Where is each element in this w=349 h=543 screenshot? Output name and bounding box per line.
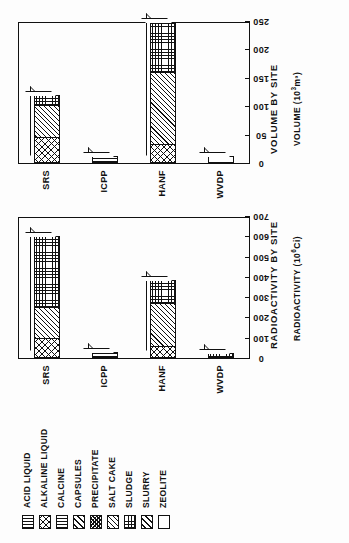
bar-segment-salt-cake <box>150 303 176 346</box>
bar-segment-alkaline-liquid <box>150 346 176 358</box>
bar-srs <box>34 236 60 358</box>
chart-volume-by-site: 050100150200250SRSICPPHANFWVDPVOLUME (10… <box>18 20 318 198</box>
figure-canvas: ACID LIQUIDALKALINE LIQUIDCALCINECAPSULE… <box>0 0 349 543</box>
bar-group <box>18 22 250 163</box>
tick-label: 600 <box>253 232 269 242</box>
tick-label: 150 <box>253 74 269 84</box>
legend-swatch-vertical-lines-wide <box>56 515 68 529</box>
category-label-srs: SRS <box>41 365 51 385</box>
legend-swatch-x-cross-coarse <box>39 515 51 529</box>
category-labels: SRSICPPHANFWVDP <box>18 166 250 198</box>
bar-hanf <box>150 280 176 358</box>
legend-label: PRECIPITATE <box>91 449 100 508</box>
legend-swatch-diagonal-single <box>73 515 85 529</box>
legend-item: SLURRY <box>139 399 154 529</box>
tick-label: 700 <box>253 212 269 222</box>
category-label-hanf: HANF <box>157 170 167 197</box>
category-label-srs: SRS <box>41 170 51 190</box>
bar-segment-sludge <box>34 236 60 307</box>
legend-item: ALKALINE LIQUID <box>37 399 52 529</box>
tick-label: 200 <box>253 45 269 55</box>
tick-label: 0 <box>258 354 263 364</box>
tick-label: 200 <box>253 313 269 323</box>
category-label-hanf: HANF <box>157 365 167 392</box>
legend-swatch-vertical-lines <box>22 515 34 529</box>
value-axis-title: VOLUME (103m³) <box>290 72 302 146</box>
tick-label: 50 <box>256 131 267 141</box>
legend-swatch-diagonal-dense <box>107 515 119 529</box>
legend-item: CAPSULES <box>71 399 86 529</box>
chart-title: VOLUME BY SITE <box>268 64 279 154</box>
category-label-icpp: ICPP <box>99 365 109 388</box>
legend-swatch-diagonal-wide <box>141 515 153 529</box>
tick-label: 300 <box>253 293 269 303</box>
legend-swatch-grid <box>124 515 136 529</box>
value-axis-title: RADIOACTIVITY (106Ci) <box>290 236 302 341</box>
legend-label: ALKALINE LIQUID <box>40 429 49 508</box>
legend-label: SLUDGE <box>125 470 134 508</box>
category-label-icpp: ICPP <box>99 170 109 193</box>
bar-segment-sludge <box>150 280 176 303</box>
bar-segment-salt-cake <box>34 105 60 137</box>
bar-srs <box>34 95 60 163</box>
legend-label: ZEOLITE <box>159 470 168 508</box>
bar-segment-sludge <box>150 22 176 72</box>
legend-label: CAPSULES <box>74 459 83 508</box>
category-axis <box>18 358 250 359</box>
waste-form-legend: ACID LIQUIDALKALINE LIQUIDCALCINECAPSULE… <box>20 399 180 529</box>
tick-label: 100 <box>253 334 269 344</box>
bar-segment-sludge <box>34 95 60 105</box>
legend-label: ACID LIQUID <box>23 452 32 508</box>
tick-label: 100 <box>253 102 269 112</box>
legend-label: SALT CAKE <box>108 457 117 508</box>
legend-item: ZEOLITE <box>156 399 171 529</box>
tick-label: 400 <box>253 273 269 283</box>
tick-label: 0 <box>258 159 263 169</box>
bar-segment-alkaline-liquid <box>34 137 60 163</box>
bar-group <box>18 217 250 358</box>
category-label-wvdp: WVDP <box>215 365 225 394</box>
legend-item: PRECIPITATE <box>88 399 103 529</box>
legend-item: ACID LIQUID <box>20 399 35 529</box>
legend-label: SLURRY <box>142 471 151 508</box>
chart-title: RADIOACTIVITY BY SITE <box>268 221 279 349</box>
legend-swatch-x-cross-dense <box>90 515 102 529</box>
category-labels: SRSICPPHANFWVDP <box>18 361 250 393</box>
legend-item: SLUDGE <box>122 399 137 529</box>
category-label-wvdp: WVDP <box>215 170 225 199</box>
legend-item: SALT CAKE <box>105 399 120 529</box>
legend-label: CALCINE <box>57 468 66 508</box>
bar-segment-salt-cake <box>34 307 60 337</box>
category-axis <box>18 163 250 164</box>
bar-segment-alkaline-liquid <box>150 144 176 163</box>
legend-swatch-blank <box>158 515 170 529</box>
bar-segment-alkaline-liquid <box>34 338 60 358</box>
figure-page: ACID LIQUIDALKALINE LIQUIDCALCINECAPSULE… <box>0 0 349 543</box>
chart-radioactivity-by-site: 0100200300400500600700SRSICPPHANFWVDPRAD… <box>18 215 318 393</box>
bar-hanf <box>150 22 176 163</box>
tick-label: 500 <box>253 253 269 263</box>
legend-item: CALCINE <box>54 399 69 529</box>
bar-segment-salt-cake <box>150 72 176 144</box>
tick-label: 250 <box>253 17 269 27</box>
